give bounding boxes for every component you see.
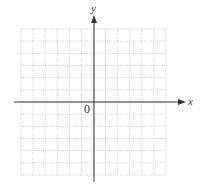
x-axis-label: x [187,95,193,107]
y-axis-arrow-icon [91,15,97,23]
y-axis-label: y [90,2,96,14]
coordinate-plane: y x 0 [0,0,203,195]
x-axis-arrow-icon [178,99,186,105]
origin-label: 0 [84,102,90,116]
